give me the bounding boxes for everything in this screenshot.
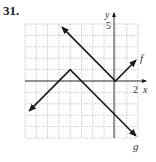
- f-label: f: [140, 52, 145, 64]
- graph: x y 2 5 f g: [0, 0, 156, 162]
- g-graph-line: [30, 70, 136, 136]
- x-tick-2: 2: [133, 84, 138, 95]
- x-axis-label: x: [142, 84, 148, 95]
- y-axis-label: y: [104, 9, 110, 20]
- y-tick-5: 5: [106, 20, 111, 31]
- g-label: g: [133, 140, 139, 152]
